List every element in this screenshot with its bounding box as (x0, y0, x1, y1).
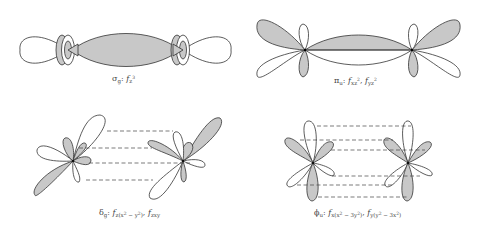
orbital-subscript: − y (127, 212, 138, 218)
panel-pi-u (257, 20, 460, 77)
label-sigma-g: σg: fz3 (112, 74, 135, 84)
orbital-subscript: zxy (151, 212, 160, 218)
panel-delta-g (34, 115, 222, 199)
orbital-superscript: 3 (132, 75, 135, 80)
label-phi-u: ϕu: fx(x2 − 3y2), fy(y2 − 3x2) (314, 208, 401, 218)
orbital-subscript: z(x (116, 212, 124, 218)
label-delta-g: δg: fz(x2 − y2), fzxy (99, 208, 160, 218)
orbital-subscript: − 3y (342, 212, 357, 218)
panel-sigma-g (20, 34, 231, 67)
orbital-subscript: y(y (370, 212, 378, 218)
orbital-superscript: 2 (374, 77, 377, 82)
orbital-diagram: .sh { fill:#c8c8c8; stroke:#333; stroke-… (0, 0, 483, 237)
orbital-subscript: − 3x (382, 212, 397, 218)
orbital-subscript: ) (399, 212, 401, 218)
panel-phi-u (285, 121, 432, 201)
orbital-subscript: x(x (331, 212, 339, 218)
label-pi-u: πu: fxz2, fyz2 (334, 76, 377, 86)
